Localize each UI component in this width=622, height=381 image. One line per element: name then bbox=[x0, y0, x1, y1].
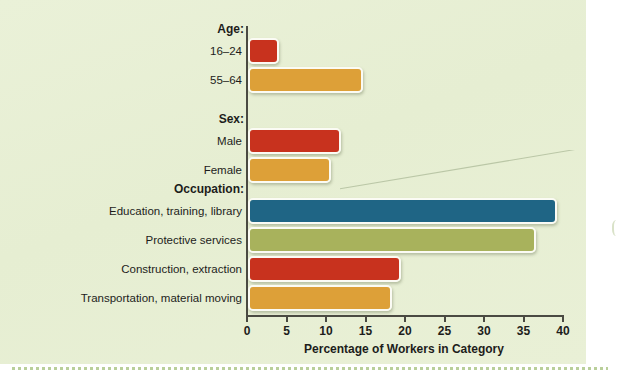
x-tick-label-0: 0 bbox=[244, 324, 251, 338]
bar-occupation-1 bbox=[248, 227, 536, 253]
bar-fill bbox=[250, 40, 277, 62]
dotted-divider-rule bbox=[12, 367, 608, 370]
chart-figure: 0510152025303540 Age:16–2455–64Sex:MaleF… bbox=[0, 0, 622, 381]
page-edge-mark bbox=[612, 220, 622, 236]
x-tick-5 bbox=[286, 315, 288, 322]
x-tick-20 bbox=[404, 315, 406, 322]
bar-occupation-3 bbox=[248, 285, 392, 311]
x-tick-label-25: 25 bbox=[438, 324, 451, 338]
group-header-age: Age: bbox=[217, 22, 244, 36]
x-tick-label-10: 10 bbox=[319, 324, 332, 338]
bar-fill bbox=[250, 229, 534, 251]
category-label-occupation-0: Education, training, library bbox=[109, 205, 242, 217]
x-tick-35 bbox=[523, 315, 525, 322]
x-tick-25 bbox=[444, 315, 446, 322]
bar-sex-1 bbox=[248, 157, 331, 183]
category-label-age-1: 55–64 bbox=[210, 74, 242, 86]
category-label-sex-1: Female bbox=[204, 164, 242, 176]
x-tick-30 bbox=[483, 315, 485, 322]
plot-area: 0510152025303540 Age:16–2455–64Sex:MaleF… bbox=[0, 0, 586, 364]
bar-occupation-2 bbox=[248, 256, 401, 282]
x-tick-label-40: 40 bbox=[556, 324, 569, 338]
bar-occupation-0 bbox=[248, 198, 557, 224]
x-tick-label-15: 15 bbox=[359, 324, 372, 338]
bar-fill bbox=[250, 69, 361, 91]
category-label-sex-0: Male bbox=[217, 135, 242, 147]
x-tick-label-35: 35 bbox=[517, 324, 530, 338]
bar-fill bbox=[250, 287, 390, 309]
bar-fill bbox=[250, 159, 329, 181]
category-label-occupation-2: Construction, extraction bbox=[121, 263, 242, 275]
x-tick-40 bbox=[562, 315, 564, 322]
x-tick-0 bbox=[246, 315, 248, 322]
bar-fill bbox=[250, 258, 399, 280]
bar-sex-0 bbox=[248, 128, 341, 154]
x-axis-title: Percentage of Workers in Category bbox=[246, 342, 562, 356]
x-tick-label-30: 30 bbox=[477, 324, 490, 338]
bar-fill bbox=[250, 200, 555, 222]
x-tick-label-20: 20 bbox=[398, 324, 411, 338]
category-label-occupation-1: Protective services bbox=[145, 234, 242, 246]
category-label-occupation-3: Transportation, material moving bbox=[81, 292, 242, 304]
x-tick-label-5: 5 bbox=[283, 324, 290, 338]
x-tick-15 bbox=[365, 315, 367, 322]
bar-age-0 bbox=[248, 38, 279, 64]
category-label-age-0: 16–24 bbox=[210, 45, 242, 57]
group-header-occupation: Occupation: bbox=[174, 182, 244, 196]
group-header-sex: Sex: bbox=[219, 112, 244, 126]
x-tick-10 bbox=[325, 315, 327, 322]
bar-fill bbox=[250, 130, 339, 152]
bar-age-1 bbox=[248, 67, 363, 93]
